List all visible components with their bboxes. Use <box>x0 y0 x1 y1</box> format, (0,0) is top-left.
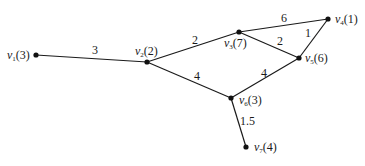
edge-weight-label: 4 <box>261 66 267 80</box>
edge-v3-v5 <box>239 32 299 58</box>
edge-weight-label: 3 <box>92 43 98 57</box>
nodes-group <box>33 16 330 149</box>
edge-weight-label: 1.5 <box>240 114 255 128</box>
node-label-v3: v3(7) <box>224 36 247 51</box>
node-value: (2) <box>144 44 158 58</box>
edge-weight-label: 2 <box>192 33 198 47</box>
edge-weight-label: 2 <box>277 34 283 48</box>
edge-labels-group: 32621441.5 <box>92 11 311 128</box>
node-v3 <box>236 29 241 34</box>
node-label-v1: v1(3) <box>7 48 30 63</box>
node-label-v4: v4(1) <box>335 12 358 27</box>
node-value: (1) <box>344 12 358 26</box>
node-v1 <box>33 52 38 57</box>
edge-weight-label: 6 <box>281 11 287 25</box>
node-value: (3) <box>16 48 30 62</box>
graph-diagram: 32621441.5 v1(3)v2(2)v3(7)v4(1)v5(6)v6(3… <box>0 0 365 166</box>
node-value: (7) <box>233 36 247 50</box>
edge-v2-v6 <box>147 62 231 98</box>
node-value: (4) <box>263 140 277 154</box>
node-value: (6) <box>314 51 328 65</box>
node-label-v2: v2(2) <box>135 44 158 59</box>
edges-group <box>36 19 328 147</box>
node-v2 <box>144 59 149 64</box>
node-label-v7: v7(4) <box>254 140 277 155</box>
node-v4 <box>325 16 330 21</box>
node-value: (3) <box>248 93 262 107</box>
node-label-v6: v6(3) <box>239 93 262 108</box>
node-v7 <box>243 144 248 149</box>
edge-weight-label: 1 <box>305 26 311 40</box>
node-v6 <box>228 95 233 100</box>
node-v5 <box>296 55 301 60</box>
node-label-v5: v5(6) <box>305 51 328 66</box>
edge-weight-label: 4 <box>194 69 200 83</box>
